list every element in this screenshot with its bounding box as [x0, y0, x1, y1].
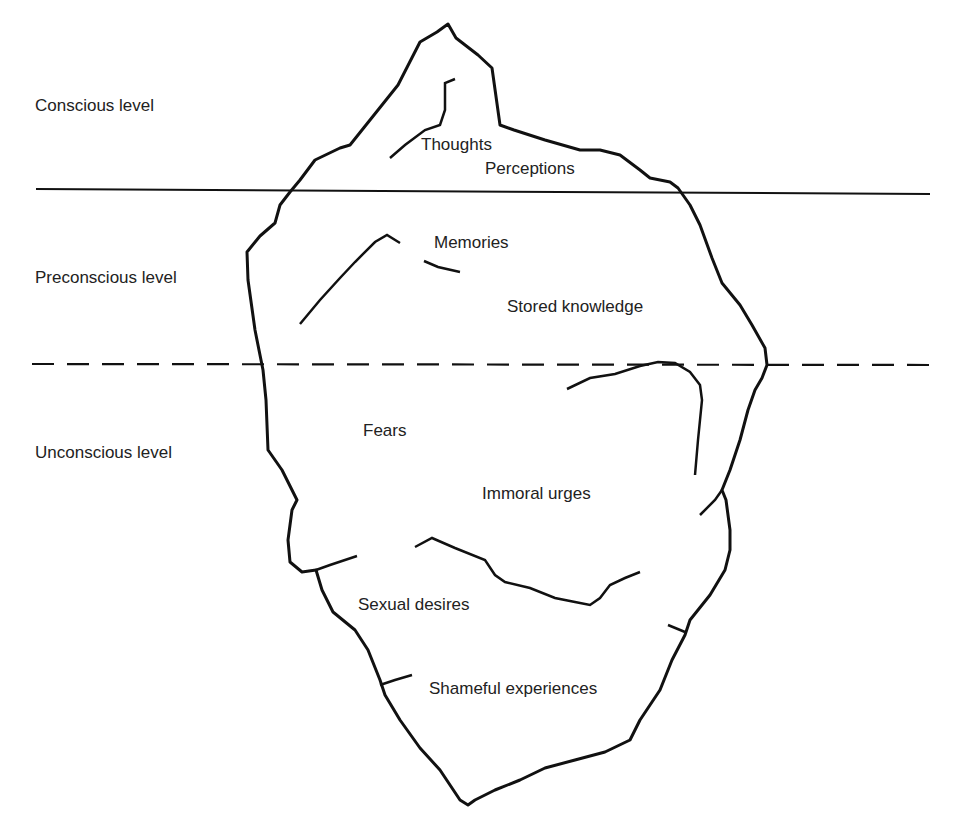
crack-line-memories-small [424, 261, 460, 272]
conscious-boundary-line [36, 189, 930, 194]
item-memories: Memories [434, 233, 509, 253]
level-label-unconscious: Unconscious level [35, 443, 172, 463]
item-sexual-desires: Sexual desires [358, 595, 470, 615]
crack-line-right-mid [700, 490, 722, 515]
item-immoral-urges: Immoral urges [482, 484, 591, 504]
crack-line-sexual-desires [316, 556, 357, 570]
item-perceptions: Perceptions [485, 159, 575, 179]
crack-line-right-lower [668, 625, 685, 632]
level-label-preconscious: Preconscious level [35, 268, 177, 288]
item-stored-knowledge: Stored knowledge [507, 297, 643, 317]
preconscious-boundary-line [32, 364, 940, 365]
item-fears: Fears [363, 421, 406, 441]
item-shameful-experiences: Shameful experiences [429, 679, 597, 699]
item-thoughts: Thoughts [421, 135, 492, 155]
level-label-conscious: Conscious level [35, 96, 154, 116]
crack-line-unconscious-upper [567, 362, 702, 475]
crack-line-memories-left [300, 235, 400, 324]
iceberg-diagram [0, 0, 962, 837]
crack-line-shameful [380, 675, 412, 685]
